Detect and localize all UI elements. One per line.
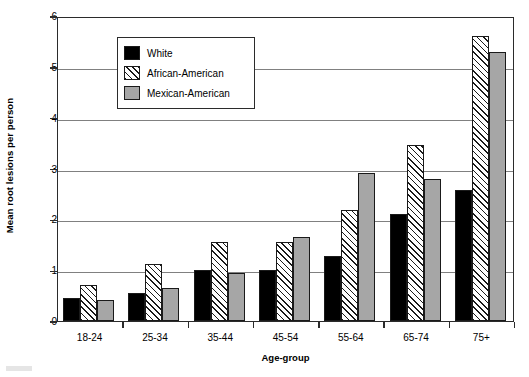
bar-white-25-34 [128,293,145,321]
bar-mexican-american-35-44 [228,273,245,321]
legend-swatch-mexican-american-icon [124,86,140,100]
bar-mexican-american-65-74 [424,179,441,321]
bar-white-75plus [455,190,472,321]
scan-artifact [6,366,32,371]
x-tick-mark-6 [514,322,515,328]
x-tick-mark-5 [449,322,450,328]
x-tick-mark-2 [253,322,254,328]
bar-group-75plus [455,18,506,321]
bar-group-45-54 [259,18,310,321]
bar-african-american-65-74 [407,145,424,321]
bar-african-american-25-34 [145,264,162,321]
y-axis-title-text: Mean root lesions per person [5,97,16,232]
bar-group-55-64 [324,18,375,321]
bar-group-65-74 [390,18,441,321]
legend-item-white: White [124,43,248,63]
x-tick-label-35-44: 35-44 [185,332,255,343]
bar-white-55-64 [324,256,341,321]
chart-legend: White African-American Mexican-American [117,37,255,109]
x-tick-label-65-74: 65-74 [381,332,451,343]
legend-item-african-american: African-American [124,63,248,83]
x-tick-label-18-24: 18-24 [55,332,125,343]
bar-group-18-24 [63,18,114,321]
legend-swatch-white-icon [124,46,140,60]
legend-swatch-african-american-icon [124,66,140,80]
x-tick-mark-4 [383,322,384,328]
x-tick-mark-0 [122,322,123,328]
bar-african-american-35-44 [211,242,228,321]
bar-chart-figure: Mean root lesions per person 6 5 4 3 2 1… [0,0,529,377]
bar-mexican-american-45-54 [293,237,310,321]
bar-african-american-55-64 [341,210,358,321]
bar-mexican-american-75plus [489,52,506,321]
bar-white-35-44 [194,270,211,321]
x-tick-mark-3 [318,322,319,328]
x-tick-label-55-64: 55-64 [316,332,386,343]
y-tick-mark-5 [50,67,57,68]
bar-white-65-74 [390,214,407,321]
bar-african-american-18-24 [80,285,97,321]
plot-area: White African-American Mexican-American [57,17,514,322]
bar-mexican-american-25-34 [162,288,179,321]
y-tick-mark-0 [50,321,57,322]
x-tick-mark-1 [188,322,189,328]
bar-mexican-american-18-24 [97,300,114,321]
legend-label-mexican-american: Mexican-American [147,88,230,99]
y-tick-mark-3 [50,169,57,170]
x-tick-label-45-54: 45-54 [251,332,321,343]
x-tick-label-25-34: 25-34 [120,332,190,343]
y-tick-mark-2 [50,220,57,221]
bar-mexican-american-55-64 [358,173,375,321]
y-tick-mark-1 [50,271,57,272]
y-tick-mark-6 [50,16,57,17]
x-tick-label-75plus: 75+ [446,332,516,343]
legend-item-mexican-american: Mexican-American [124,83,248,103]
bar-white-18-24 [63,298,80,321]
y-tick-mark-4 [50,118,57,119]
bar-african-american-75plus [472,36,489,321]
bar-african-american-45-54 [276,242,293,321]
legend-label-white: White [147,48,173,59]
y-axis-title: Mean root lesions per person [0,0,20,330]
legend-label-african-american: African-American [147,68,224,79]
bar-white-45-54 [259,270,276,321]
x-axis-title: Age-group [57,352,514,363]
